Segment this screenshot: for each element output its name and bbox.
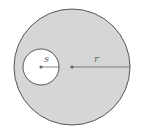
inner-center-dot	[39, 65, 42, 68]
outer-center-dot	[70, 65, 73, 68]
inner-radius-label: s	[44, 53, 49, 64]
circles-diagram: s r	[0, 0, 141, 129]
